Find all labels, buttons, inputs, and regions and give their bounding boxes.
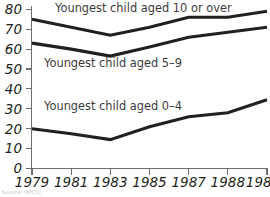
y-tick-label-30: 30 [5, 101, 22, 117]
y-axis-tick-labels: 0 10 20 30 40 50 60 70 80 [5, 1, 22, 176]
series-label-youngest-child-0-4: Youngest child aged 0–4 [43, 99, 182, 113]
x-tick-label-1988: 1988 [211, 174, 245, 190]
series-label-youngest-child-5-9: Youngest child aged 5–9 [43, 56, 182, 70]
line-chart-figure: 0 10 20 30 40 50 60 70 80 1979 1981 1983… [0, 0, 270, 197]
chart-canvas: 0 10 20 30 40 50 60 70 80 1979 1981 1983… [0, 0, 270, 197]
x-tick-label-1989: 1989 [246, 174, 270, 190]
x-axis-tick-labels: 1979 1981 1983 1985 1987 1988 1989 [15, 174, 270, 190]
y-tick-label-60: 60 [5, 41, 22, 57]
x-tick-label-1983: 1983 [93, 174, 127, 190]
x-tick-label-1985: 1985 [132, 174, 166, 190]
x-tick-label-1981: 1981 [54, 174, 88, 190]
y-tick-label-80: 80 [5, 1, 22, 17]
x-tick-label-1979: 1979 [15, 174, 49, 190]
x-tick-label-1987: 1987 [172, 174, 207, 190]
series-label-youngest-child-10-or-over: Youngest child aged 10 or over [54, 1, 232, 15]
y-axis-ticks [26, 9, 32, 168]
y-tick-label-10: 10 [5, 140, 22, 156]
source-note: Source: OPCS) [2, 189, 41, 195]
y-tick-label-70: 70 [5, 21, 22, 37]
series-line-youngest-child-5-9 [32, 27, 267, 56]
y-tick-label-50: 50 [5, 61, 22, 77]
y-tick-label-40: 40 [5, 81, 22, 97]
y-tick-label-20: 20 [5, 121, 22, 137]
